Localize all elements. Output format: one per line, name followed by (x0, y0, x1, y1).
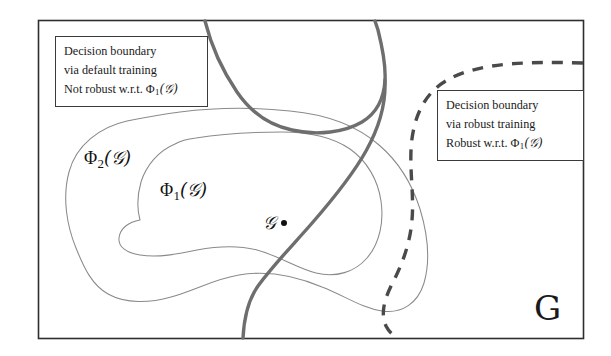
phi1-region-outline (119, 132, 382, 275)
callout-default-line-3: Not robust w.r.t. Φ1(𝒢) (64, 80, 199, 100)
callout-default-phi-arg: (𝒢) (159, 82, 178, 96)
phi2-subscript: 2 (97, 156, 104, 171)
default-decision-boundary-curve (205, 21, 385, 133)
figure-root: Decision boundary via default training N… (0, 0, 611, 356)
callout-robust-phi-arg: (𝒢) (524, 136, 543, 150)
universe-label-g: G (534, 288, 561, 328)
phi2-arg: (𝒢) (104, 147, 131, 168)
data-point-label-g: 𝒢 (263, 212, 287, 234)
callout-robust-line-3: Robust w.r.t. Φ1(𝒢) (446, 134, 575, 154)
callout-default-phi-symbol: Φ (146, 82, 155, 96)
callout-default-line-3-text: Not robust w.r.t. (64, 82, 146, 96)
callout-robust-line-3-text: Robust w.r.t. (446, 136, 511, 150)
phi1-subscript: 1 (173, 188, 180, 203)
callout-default-training: Decision boundary via default training N… (55, 36, 208, 107)
callout-robust-training: Decision boundary via robust training Ro… (437, 90, 584, 161)
region-label-phi1: Φ1(𝒢) (160, 179, 207, 204)
callout-default-line-1: Decision boundary (64, 42, 199, 61)
point-g-symbol: 𝒢 (263, 212, 276, 233)
callout-robust-line-2: via robust training (446, 115, 575, 134)
callout-robust-line-1: Decision boundary (446, 96, 575, 115)
phi2-symbol: Φ (84, 148, 97, 168)
callout-default-line-2: via default training (64, 61, 199, 80)
phi1-symbol: Φ (160, 180, 173, 200)
region-label-phi2: Φ2(𝒢) (84, 147, 131, 172)
phi1-arg: (𝒢) (180, 179, 207, 200)
data-point-dot (281, 220, 287, 226)
